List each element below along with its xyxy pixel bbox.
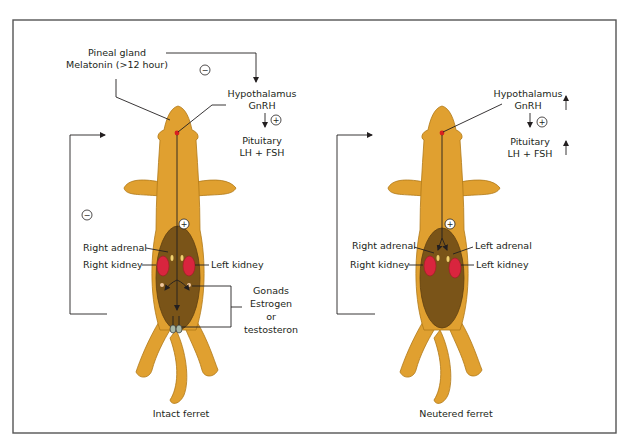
right-adrenal [171,255,174,261]
stimulate-symbol-text: + [539,118,546,127]
diagram-canvas: + Pineal gland Melatonin (>12 hour) − Hy… [0,0,628,438]
gnrh-label: GnRH [514,100,541,111]
left-gonad-dot [187,283,191,287]
abdomen [420,228,464,328]
gonad-right [176,325,182,333]
right-adrenal-label: Right adrenal [352,240,416,251]
right-adrenal-label: Right adrenal [83,242,147,253]
lh-fsh-label: LH + FSH [508,148,553,159]
gonad-left [170,325,176,333]
right-kidney-label: Right kidney [83,259,143,270]
melatonin-label: Melatonin (>12 hour) [66,59,168,70]
pineal-gland-label: Pineal gland [88,47,146,58]
stimulate-symbol-text: + [181,220,188,229]
inhibit-symbol-text: − [202,66,209,75]
hypothalamus-label: Hypothalamus [228,88,297,99]
inhibit-symbol-text: − [84,211,91,220]
left-adrenal [181,255,184,261]
left-adrenal [447,256,450,262]
or-label: or [266,311,276,322]
stimulate-symbol-text: + [447,220,454,229]
right-kidney-label: Right kidney [350,259,410,270]
pituitary-label: Pituitary [242,135,282,146]
right-kidney [157,256,169,276]
gnrh-label: GnRH [248,100,275,111]
stimulate-symbol-text: + [273,116,280,125]
abdomen [156,226,200,330]
neutered-ferret-caption: Neutered ferret [419,408,493,419]
testosteron-label: testosteron [244,324,298,335]
left-kidney [449,258,461,278]
gonads-label: Gonads [253,285,289,296]
right-adrenal [437,255,440,261]
hypothalamus-label: Hypothalamus [494,88,563,99]
left-kidney [183,256,195,276]
left-adrenal-label: Left adrenal [475,240,532,251]
right-kidney [424,256,436,276]
estrogen-label: Estrogen [250,298,292,309]
left-kidney-label: Left kidney [476,259,529,270]
right-gonad-dot [160,283,164,287]
lh-fsh-label: LH + FSH [240,147,285,158]
intact-ferret-caption: Intact ferret [153,408,210,419]
figure-frame [13,20,616,433]
pituitary-label: Pituitary [510,136,550,147]
left-kidney-label: Left kidney [211,259,264,270]
ferret-endocrine-diagram: + Pineal gland Melatonin (>12 hour) − Hy… [0,0,628,438]
